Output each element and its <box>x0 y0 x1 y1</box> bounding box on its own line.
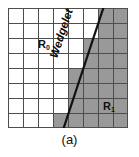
region-label-r1: R1 <box>103 101 115 112</box>
figure-caption: (a) <box>0 133 139 147</box>
wedgelet-grid: R0 R1 Wedgelet <box>8 8 128 128</box>
region-label-r0: R0 <box>38 39 50 50</box>
region-label-r1-subscript: 1 <box>111 106 115 113</box>
figure-container: R0 R1 Wedgelet (a) <box>0 0 139 157</box>
